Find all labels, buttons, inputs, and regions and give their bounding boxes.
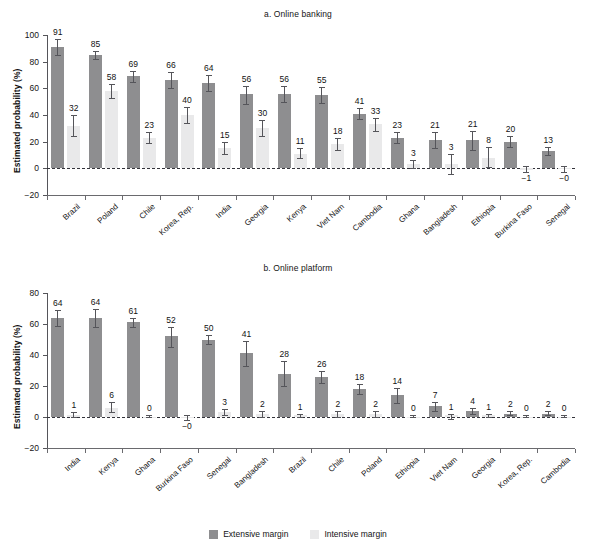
bar-value-label: 0 [562, 403, 567, 413]
error-bar [435, 132, 436, 148]
legend-label-intensive: Intensive margin [324, 529, 386, 539]
bar-extensive [89, 318, 102, 417]
error-bar-cap [281, 386, 287, 387]
bar-value-label: 23 [393, 120, 402, 130]
bar-value-label: 1 [298, 402, 303, 412]
error-bar-cap [523, 417, 529, 418]
error-bar-cap [206, 91, 212, 92]
error-bar-cap [319, 383, 325, 384]
error-bar-cap [335, 417, 341, 418]
error-bar-cap [184, 123, 190, 124]
bar-extensive [127, 76, 140, 168]
bar-value-label: 30 [258, 108, 267, 118]
error-bar [133, 71, 134, 82]
bar-value-label: 0 [524, 403, 529, 413]
panel-online-banking: a. Online banking −200204060801009132855… [0, 0, 596, 255]
bar-value-label: 56 [242, 74, 251, 84]
error-bar-cap [93, 327, 99, 328]
error-bar-cap [507, 147, 513, 148]
error-bar [488, 147, 489, 167]
bar-value-label: 2 [508, 399, 513, 409]
error-bar-cap [130, 318, 136, 319]
error-bar [375, 118, 376, 131]
legend-label-extensive: Extensive margin [223, 529, 288, 539]
bar-value-label: 1 [449, 402, 454, 412]
y-axis-title: Estimated probability (%) [12, 68, 22, 173]
error-bar-cap [297, 414, 303, 415]
error-bar [57, 310, 58, 326]
error-bar [262, 120, 263, 136]
bar-value-label: 2 [260, 399, 265, 409]
error-bar-cap [146, 417, 152, 418]
x-tick-mark [122, 196, 123, 200]
bar-value-label: 4 [470, 396, 475, 406]
x-tick-mark [160, 196, 161, 200]
error-bar-cap [486, 414, 492, 415]
error-bar [451, 154, 452, 174]
x-tick-mark [198, 196, 199, 200]
x-tick-mark [575, 449, 576, 453]
x-tick-mark [122, 449, 123, 453]
bar-value-label: 33 [371, 106, 380, 116]
y-tick-mark [43, 324, 47, 325]
bar-value-label: 61 [129, 306, 138, 316]
error-bar-cap [243, 86, 249, 87]
bar-value-label: 91 [53, 27, 62, 37]
error-bar [208, 75, 209, 91]
figure-container: a. Online banking −200204060801009132855… [0, 0, 596, 549]
error-bar-cap [297, 158, 303, 159]
error-bar-cap [184, 107, 190, 108]
y-axis-tick-label: −20 [9, 443, 43, 453]
error-bar-cap [184, 415, 190, 416]
error-bar-cap [410, 160, 416, 161]
error-bar-cap [470, 414, 476, 415]
y-tick-mark [43, 355, 47, 356]
x-tick-mark [311, 449, 312, 453]
error-bar [337, 138, 338, 150]
error-bar-cap [486, 417, 492, 418]
error-bar-cap [259, 411, 265, 412]
error-bar-cap [410, 417, 416, 418]
y-tick-mark [43, 386, 47, 387]
bar-value-label: 64 [91, 297, 100, 307]
y-axis-title: Estimated probability (%) [12, 324, 22, 429]
legend-swatch-intensive-icon [310, 530, 319, 539]
error-bar-cap [448, 174, 454, 175]
x-tick-mark [500, 196, 501, 200]
bar-value-label: 50 [204, 323, 213, 333]
error-bar-cap [432, 148, 438, 149]
error-bar-cap [281, 361, 287, 362]
error-bar-cap [222, 142, 228, 143]
error-bar-cap [55, 326, 61, 327]
error-bar-cap [130, 71, 136, 72]
bar-extensive [315, 95, 328, 168]
error-bar-cap [130, 82, 136, 83]
x-tick-mark [349, 196, 350, 200]
bar-value-label: 41 [242, 329, 251, 339]
bar-value-label: 2 [373, 399, 378, 409]
error-bar-cap [206, 344, 212, 345]
bar-value-label: 41 [355, 96, 364, 106]
error-bar-cap [335, 150, 341, 151]
error-bar-cap [545, 155, 551, 156]
error-bar-cap [561, 417, 567, 418]
bar-extensive [202, 83, 215, 168]
error-bar [413, 160, 414, 168]
error-bar-cap [93, 309, 99, 310]
zero-reference-line [47, 417, 575, 418]
error-bar-cap [545, 411, 551, 412]
x-tick-mark [424, 196, 425, 200]
error-bar-cap [373, 131, 379, 132]
x-tick-mark [537, 449, 538, 453]
error-bar-cap [545, 147, 551, 148]
x-tick-mark [85, 196, 86, 200]
x-tick-mark [349, 449, 350, 453]
error-bar-cap [394, 403, 400, 404]
error-bar [359, 108, 360, 119]
error-bar-cap [448, 414, 454, 415]
x-tick-mark [198, 449, 199, 453]
bar-value-label: 14 [393, 376, 402, 386]
error-bar-cap [335, 138, 341, 139]
error-bar-cap [109, 412, 115, 413]
error-bar-cap [71, 417, 77, 418]
